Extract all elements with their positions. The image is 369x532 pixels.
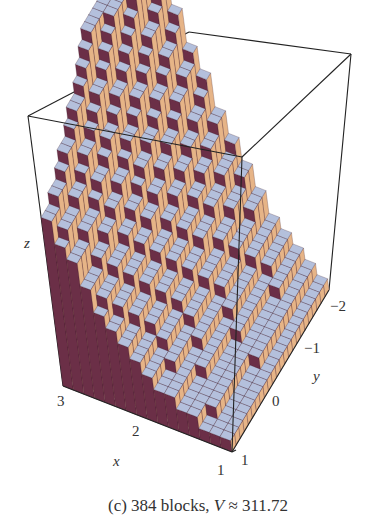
y-tick-neg1: −1 (304, 341, 320, 356)
y-tick-1: 1 (241, 453, 249, 468)
x-tick-1: 1 (217, 463, 225, 478)
y-axis-label: y (313, 369, 320, 384)
y-tick-0: 0 (272, 394, 280, 409)
x-tick-3: 3 (57, 394, 65, 409)
caption-value: ≈ 311.72 (224, 496, 288, 515)
y-tick-neg2: −2 (330, 299, 346, 314)
block-surface (41, 0, 329, 452)
block-plot-3d (0, 0, 369, 490)
z-axis-label: z (24, 236, 30, 251)
figure-caption: (c) 384 blocks, V ≈ 311.72 (108, 496, 288, 516)
caption-variable: V (214, 496, 224, 515)
x-axis-label: x (113, 454, 120, 469)
caption-prefix: (c) 384 blocks, (108, 496, 214, 515)
x-tick-2: 2 (132, 424, 140, 439)
